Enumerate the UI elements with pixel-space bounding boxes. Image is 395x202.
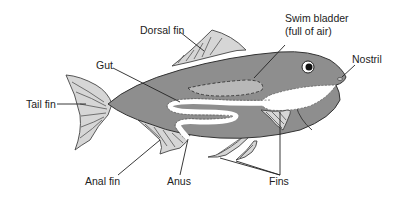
label-gut: Gut [96, 59, 113, 71]
label-tail-fin: Tail fin [26, 98, 56, 110]
label-anus: Anus [167, 175, 191, 187]
label-nostril: Nostril [352, 53, 382, 65]
fish-anatomy-diagram: Dorsal fin Swim bladder (full of air) Gu… [0, 0, 395, 202]
label-dorsal-fin: Dorsal fin [140, 24, 185, 36]
eye [302, 61, 314, 73]
label-swim-bladder: Swim bladder [285, 12, 349, 24]
label-fins: Fins [269, 175, 289, 187]
label-swim-bladder-note: (full of air) [285, 25, 332, 37]
tail-fin [66, 75, 112, 150]
label-anal-fin: Anal fin [85, 175, 120, 187]
nostril [338, 78, 343, 81]
